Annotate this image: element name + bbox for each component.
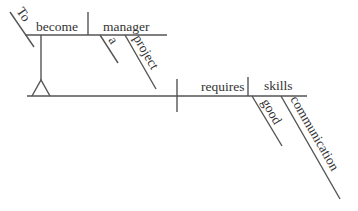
pedestal-triangle — [32, 80, 50, 96]
main-clause: requires skills good communication — [27, 77, 343, 199]
word-communication: communication — [287, 93, 342, 173]
infinitive-phrase: To become manager a project — [10, 4, 167, 89]
word-requires: requires — [201, 79, 244, 94]
pedestal — [32, 35, 50, 96]
word-become: become — [36, 19, 78, 34]
word-good: good — [258, 96, 285, 127]
sentence-diagram: To become manager a project requires ski… — [0, 0, 358, 211]
word-skills: skills — [264, 78, 293, 93]
